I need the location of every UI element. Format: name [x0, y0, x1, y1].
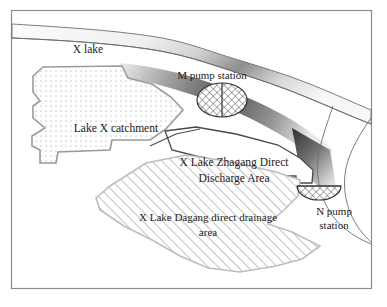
- label-lake-x-catchment: Lake X catchment: [74, 122, 159, 134]
- map-canvas: X lake M pump station Lake X catchment X…: [0, 0, 387, 307]
- label-n-pump-line2: station: [319, 219, 349, 231]
- m-pump-station-symbol[interactable]: [197, 83, 247, 117]
- label-dagang-line1: X Lake Dagang direct drainage: [139, 211, 277, 223]
- label-zhagang-line1: X Lake Zhagang Direct: [180, 156, 290, 169]
- schematic-map: X lake M pump station Lake X catchment X…: [0, 0, 387, 307]
- label-n-pump-line1: N pump: [316, 205, 352, 217]
- label-dagang-line2: area: [199, 226, 217, 238]
- n-pump-station-symbol[interactable]: [297, 186, 341, 200]
- label-x-lake: X lake: [73, 43, 103, 55]
- n-pump-half-ellipse[interactable]: [297, 186, 341, 200]
- label-m-pump-station: M pump station: [177, 69, 247, 81]
- label-zhagang-line2: Discharge Area: [199, 172, 270, 185]
